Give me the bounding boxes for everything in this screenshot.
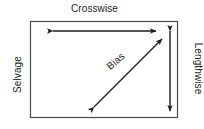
selvage-label: Selvage bbox=[12, 48, 23, 102]
bias-arrow bbox=[94, 39, 162, 107]
crosswise-label: Crosswise bbox=[71, 3, 118, 14]
diagram-canvas bbox=[0, 0, 203, 129]
lengthwise-label: Lengthwise bbox=[193, 34, 204, 104]
fabric-grain-diagram: Crosswise Selvage Lengthwise Bias bbox=[0, 0, 203, 129]
fabric-rectangle bbox=[31, 22, 178, 118]
